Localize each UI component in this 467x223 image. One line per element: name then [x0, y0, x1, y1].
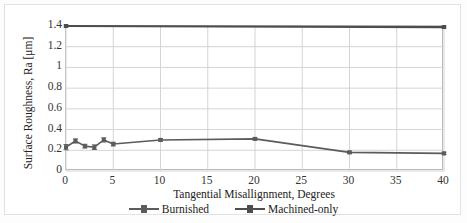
x-axis-tick-label: 25 [281, 175, 321, 187]
legend-label: Machined-only [268, 203, 338, 215]
y-axis-tick-label: 0 [22, 164, 62, 176]
x-axis-tick-label: 30 [329, 175, 369, 187]
x-axis-tick-label: 35 [376, 175, 416, 187]
y-axis-tick-label: 1.4 [22, 19, 62, 31]
data-point-marker [442, 25, 446, 29]
data-point-marker [111, 142, 115, 146]
data-point-marker [64, 145, 68, 149]
data-point-marker [73, 139, 77, 143]
x-axis-tick-label: 0 [45, 175, 85, 187]
y-axis-tick-label: 1.2 [22, 40, 62, 52]
x-axis-tick-label: 40 [423, 175, 463, 187]
data-point-marker [348, 150, 352, 154]
data-point-marker [92, 145, 96, 149]
legend-swatch [129, 204, 159, 214]
legend-item[interactable]: Burnished [129, 203, 209, 215]
x-axis-tick-label: 10 [140, 175, 180, 187]
data-point-marker [159, 138, 163, 142]
data-series-layer [66, 26, 444, 171]
legend-item[interactable]: Machined-only [235, 203, 338, 215]
series-line [66, 26, 444, 27]
x-axis-tick-label: 15 [187, 175, 227, 187]
legend-swatch [235, 204, 265, 214]
y-axis-tick-label: 0.4 [22, 123, 62, 135]
data-point-marker [83, 144, 87, 148]
legend-marker [247, 205, 253, 213]
data-point-marker [442, 151, 446, 155]
legend-marker [141, 205, 147, 213]
y-axis-tick-label: 0.2 [22, 143, 62, 155]
plot-area [65, 25, 443, 170]
data-point-marker [102, 138, 106, 142]
x-axis-tick-label: 20 [234, 175, 274, 187]
x-axis-tick-labels: 0510152025303540 [65, 175, 443, 189]
series-machined-only [64, 24, 447, 29]
y-axis-tick-label: 0.6 [22, 102, 62, 114]
data-point-marker [64, 24, 68, 28]
series-line [66, 139, 444, 154]
chart-legend: BurnishedMachined-only [0, 203, 467, 215]
legend-label: Burnished [162, 203, 209, 215]
y-axis-tick-labels: 00.20.40.60.811.21.4 [18, 0, 62, 223]
x-axis-tick-label: 5 [92, 175, 132, 187]
y-axis-tick-label: 0.8 [22, 81, 62, 93]
y-axis-tick-label: 1 [22, 60, 62, 72]
chart-figure: Surface Roughness, Ra [μm] 00.20.40.60.8… [0, 0, 467, 223]
x-axis-title: Tangential Misallignment, Degrees [65, 188, 443, 200]
data-point-marker [253, 137, 257, 141]
series-burnished [64, 137, 447, 156]
